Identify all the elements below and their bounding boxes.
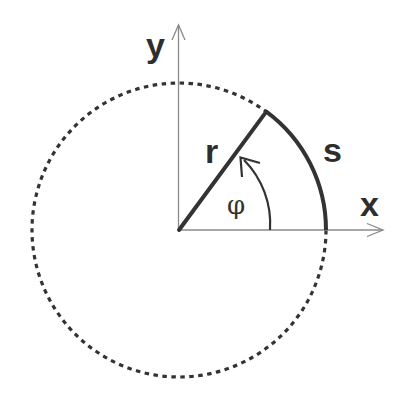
- radius-label: r: [205, 132, 218, 170]
- arc-length-label: s: [323, 131, 342, 169]
- y-axis-label: y: [146, 26, 165, 64]
- x-axis: [179, 224, 384, 237]
- arc-length-diagram: y x r s φ: [0, 0, 404, 393]
- y-axis: [172, 25, 185, 230]
- x-axis-label: x: [360, 185, 379, 223]
- angle-label: φ: [227, 190, 245, 220]
- arc-s: [266, 112, 326, 230]
